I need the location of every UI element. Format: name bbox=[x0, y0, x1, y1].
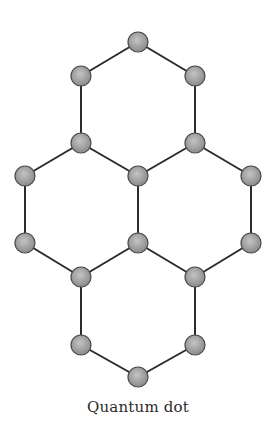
atom-node bbox=[185, 133, 205, 153]
atom-node bbox=[71, 66, 91, 86]
atom-node bbox=[128, 32, 148, 52]
atom-node bbox=[128, 166, 148, 186]
atom-node bbox=[71, 335, 91, 355]
quantum-dot-diagram bbox=[0, 0, 276, 423]
atom-node bbox=[128, 367, 148, 387]
atom-node bbox=[185, 66, 205, 86]
atom-node bbox=[15, 166, 35, 186]
atom-node bbox=[15, 233, 35, 253]
atom-node bbox=[185, 267, 205, 287]
atom-node bbox=[71, 133, 91, 153]
atom-node bbox=[241, 166, 261, 186]
atom-node bbox=[71, 267, 91, 287]
diagram-caption: Quantum dot bbox=[0, 398, 276, 416]
atom-node bbox=[185, 335, 205, 355]
atom-node bbox=[241, 233, 261, 253]
atom-node bbox=[128, 233, 148, 253]
bond-lines bbox=[25, 42, 251, 377]
